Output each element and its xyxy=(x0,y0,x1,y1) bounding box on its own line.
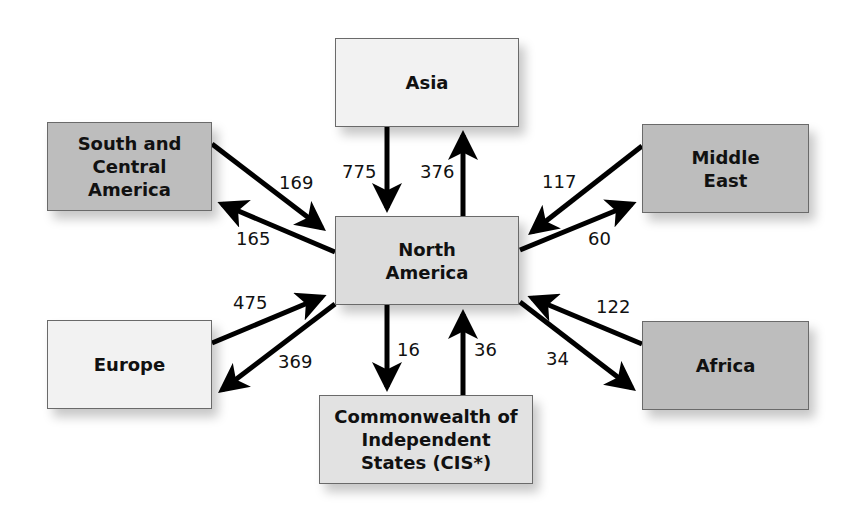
flow-value-na-to-cis: 16 xyxy=(397,339,420,360)
region-label: North America xyxy=(372,238,482,284)
flow-value-na-to-asia: 376 xyxy=(420,161,454,182)
flow-value-africa-to-na: 122 xyxy=(596,296,630,317)
region-label: Asia xyxy=(406,71,449,94)
flow-value-me-to-na: 117 xyxy=(542,171,576,192)
region-asia: Asia xyxy=(335,38,519,127)
flow-value-asia-to-na: 775 xyxy=(342,161,376,182)
region-europe: Europe xyxy=(47,320,212,409)
flow-value-na-to-europe: 369 xyxy=(278,351,312,372)
flow-value-cis-to-na: 36 xyxy=(474,339,497,360)
flow-value-na-to-sca: 165 xyxy=(236,228,270,249)
region-cis: Commonwealth of Independent States (CIS*… xyxy=(319,395,533,484)
region-north-america: North America xyxy=(335,216,519,305)
region-label: Middle East xyxy=(686,146,766,192)
region-label: South and Central America xyxy=(65,132,195,201)
region-label: Commonwealth of Independent States (CIS*… xyxy=(331,405,521,474)
region-africa: Africa xyxy=(642,321,809,410)
flow-value-na-to-africa: 34 xyxy=(546,348,569,369)
flow-value-sca-to-na: 169 xyxy=(279,172,313,193)
region-label: Europe xyxy=(94,353,165,376)
region-middle-east: Middle East xyxy=(642,124,809,213)
flow-value-na-to-me: 60 xyxy=(588,228,611,249)
region-south-central-america: South and Central America xyxy=(47,122,212,211)
region-label: Africa xyxy=(696,354,756,377)
flow-value-europe-to-na: 475 xyxy=(233,292,267,313)
